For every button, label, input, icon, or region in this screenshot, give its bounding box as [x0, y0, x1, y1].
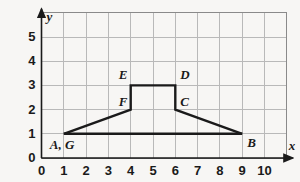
y-tick-4: 4 — [20, 54, 36, 67]
label-ag: A, G — [50, 138, 75, 151]
y-tick-3: 3 — [20, 78, 36, 91]
x-tick-2: 2 — [76, 164, 96, 177]
y-tick-5: 5 — [20, 30, 36, 43]
coordinate-plane-svg — [0, 0, 300, 182]
coordinate-grid-figure: 012345678910 012345 A, GFEDCB x y — [0, 0, 300, 182]
x-tick-3: 3 — [98, 164, 118, 177]
x-tick-0: 0 — [32, 164, 52, 177]
x-tick-9: 9 — [232, 164, 252, 177]
x-tick-1: 1 — [54, 164, 74, 177]
label-d: D — [180, 68, 189, 81]
y-axis-label: y — [47, 9, 53, 25]
y-tick-1: 1 — [20, 127, 36, 140]
x-tick-7: 7 — [188, 164, 208, 177]
x-axis-label: x — [289, 138, 296, 154]
x-tick-8: 8 — [210, 164, 230, 177]
x-tick-6: 6 — [165, 164, 185, 177]
x-tick-4: 4 — [121, 164, 141, 177]
label-b: B — [247, 136, 256, 149]
x-tick-5: 5 — [143, 164, 163, 177]
label-e: E — [119, 68, 128, 81]
label-c: C — [180, 95, 189, 108]
label-f: F — [119, 95, 128, 108]
y-tick-2: 2 — [20, 103, 36, 116]
y-tick-0: 0 — [20, 151, 36, 164]
x-tick-10: 10 — [255, 164, 275, 177]
